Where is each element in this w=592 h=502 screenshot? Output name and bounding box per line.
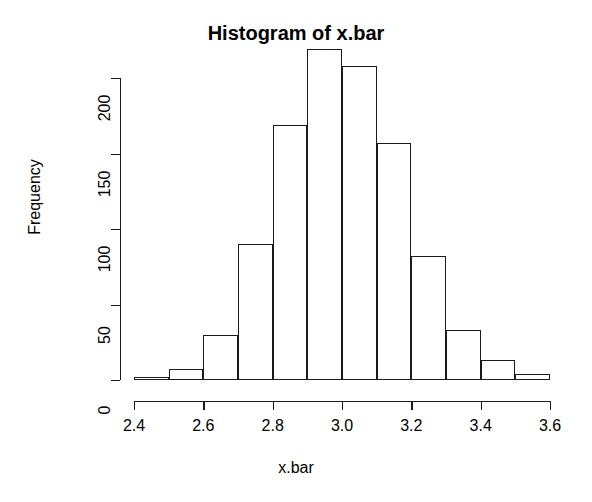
x-axis-label: x.bar — [0, 459, 592, 477]
x-axis-tick-label: 3.6 — [520, 417, 580, 435]
histogram-bar — [411, 256, 446, 380]
plot-area: 0501001502002.42.62.83.03.23.43.6 — [0, 0, 592, 502]
histogram-bar — [481, 360, 516, 380]
x-axis-tick-label: 3.0 — [312, 417, 372, 435]
histogram-figure: Histogram of x.bar Frequency 05010015020… — [0, 0, 592, 502]
histogram-bar — [203, 335, 238, 380]
histogram-baseline — [134, 379, 550, 380]
histogram-bar — [307, 49, 342, 380]
x-axis-tick — [134, 401, 135, 410]
x-axis-tick — [481, 401, 482, 410]
y-axis-line — [120, 78, 121, 380]
x-axis-tick-label: 2.6 — [173, 417, 233, 435]
histogram-bar — [273, 125, 308, 380]
x-axis-tick-label: 3.2 — [381, 417, 441, 435]
x-axis-tick — [203, 401, 204, 410]
x-axis-tick — [411, 401, 412, 410]
histogram-bar — [342, 66, 377, 380]
histogram-bar — [238, 244, 273, 380]
x-axis-tick — [273, 401, 274, 410]
x-axis-tick-label: 2.4 — [104, 417, 164, 435]
x-axis-tick — [342, 401, 343, 410]
y-axis-tick-label: 100 — [96, 229, 114, 289]
histogram-bar — [377, 143, 412, 380]
x-axis-tick-label: 2.8 — [243, 417, 303, 435]
y-axis-tick-label: 150 — [96, 154, 114, 214]
y-axis-tick-label: 200 — [96, 78, 114, 138]
histogram-bar — [446, 330, 481, 380]
y-axis-tick-label: 50 — [96, 305, 114, 365]
x-axis-tick-label: 3.4 — [451, 417, 511, 435]
x-axis-tick — [550, 401, 551, 410]
